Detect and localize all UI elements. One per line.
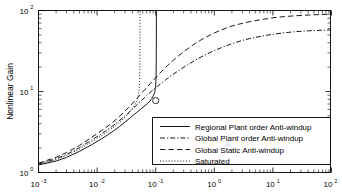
y-tick-label: 10 1 [20,85,34,96]
x-tick-label: 10 -2 [89,178,105,189]
y-axis-title: Nonlinear Gain [5,63,15,120]
y-tick-label: 10 2 [20,4,34,15]
legend-label: Global Static Anti-windup [195,146,284,155]
x-tick-label: 10 0 [207,178,221,189]
legend-label: Global Plant order Anti-windup [195,134,304,143]
svg-text:1: 1 [277,178,280,184]
svg-text:10: 10 [20,7,29,16]
svg-text:2: 2 [334,178,337,184]
svg-text:10: 10 [324,180,333,189]
svg-text:10: 10 [207,180,216,189]
svg-text:0: 0 [218,178,221,184]
x-tick-labels: 10 -3 10 -2 10 -1 10 0 10 1 10 2 [31,178,338,189]
x-tick-label: 10 1 [266,178,280,189]
svg-text:10: 10 [266,180,275,189]
svg-text:10: 10 [89,180,98,189]
svg-text:10: 10 [20,88,29,97]
figure-container: 10 -3 10 -2 10 -1 10 0 10 1 10 2 [0,0,342,194]
svg-text:0: 0 [30,166,33,172]
svg-text:-2: -2 [100,178,105,184]
svg-text:-1: -1 [159,178,164,184]
legend-label: Regional Plant order Anti-windup [195,123,312,132]
x-tick-label: 10 2 [324,178,338,189]
svg-text:2: 2 [30,4,33,10]
chart-canvas: 10 -3 10 -2 10 -1 10 0 10 1 10 2 [0,0,342,194]
y-tick-label: 10 0 [20,166,34,177]
svg-text:10: 10 [148,180,157,189]
x-tick-label: 10 -1 [148,178,164,189]
svg-text:10: 10 [20,169,29,178]
svg-text:-3: -3 [41,178,46,184]
svg-text:1: 1 [30,85,33,91]
x-tick-label: 10 -3 [31,178,47,189]
legend: Regional Plant order Anti-windup Global … [153,118,331,167]
legend-label: Saturated [195,157,230,166]
svg-text:10: 10 [31,180,40,189]
y-tick-labels: 10 0 10 1 10 2 [20,4,34,177]
data-point-marker [153,98,159,104]
